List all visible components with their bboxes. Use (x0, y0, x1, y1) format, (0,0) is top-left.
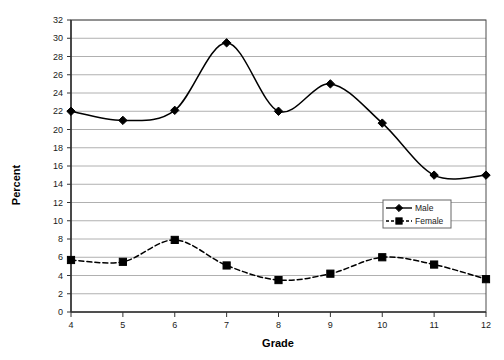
y-tick-label: 8 (58, 234, 63, 244)
y-tick-label: 18 (53, 143, 63, 153)
x-tick-label: 10 (377, 320, 387, 330)
y-tick-label: 2 (58, 289, 63, 299)
line-chart: 02468101214161820222426283032 4567891011… (0, 0, 504, 360)
data-point-marker (223, 262, 230, 269)
x-tick-label: 8 (276, 320, 281, 330)
y-tick-label: 30 (53, 33, 63, 43)
x-tick-label: 4 (68, 320, 73, 330)
x-tick-label: 9 (328, 320, 333, 330)
y-tick-label: 22 (53, 106, 63, 116)
y-tick-label: 26 (53, 70, 63, 80)
data-point-marker (396, 218, 402, 224)
y-tick-label: 4 (58, 271, 63, 281)
chart-legend: MaleFemale (383, 200, 451, 228)
y-tick-label: 12 (53, 198, 63, 208)
data-point-marker (482, 276, 489, 283)
y-tick-label: 16 (53, 161, 63, 171)
chart-canvas: 02468101214161820222426283032 4567891011… (0, 0, 504, 360)
data-point-marker (431, 261, 438, 268)
y-tick-label: 0 (58, 307, 63, 317)
data-point-marker (327, 270, 334, 277)
legend-label: Male (415, 203, 434, 213)
y-tick-label: 24 (53, 88, 63, 98)
data-point-marker (379, 254, 386, 261)
chart-background (0, 0, 504, 360)
y-tick-label: 14 (53, 179, 63, 189)
x-tick-label: 6 (172, 320, 177, 330)
y-tick-label: 20 (53, 125, 63, 135)
y-tick-label: 10 (53, 216, 63, 226)
data-point-marker (67, 256, 74, 263)
x-tick-label: 11 (429, 320, 438, 330)
x-tick-label: 5 (120, 320, 125, 330)
y-axis-title: Percent (10, 164, 22, 205)
y-tick-label: 28 (53, 52, 63, 62)
x-axis-title: Grade (262, 337, 294, 349)
data-point-marker (119, 258, 126, 265)
y-tick-label: 32 (53, 15, 63, 25)
y-tick-label: 6 (58, 252, 63, 262)
data-point-marker (171, 236, 178, 243)
data-point-marker (275, 276, 282, 283)
legend-label: Female (415, 216, 444, 226)
x-tick-label: 7 (224, 320, 229, 330)
x-tick-label: 12 (481, 320, 491, 330)
